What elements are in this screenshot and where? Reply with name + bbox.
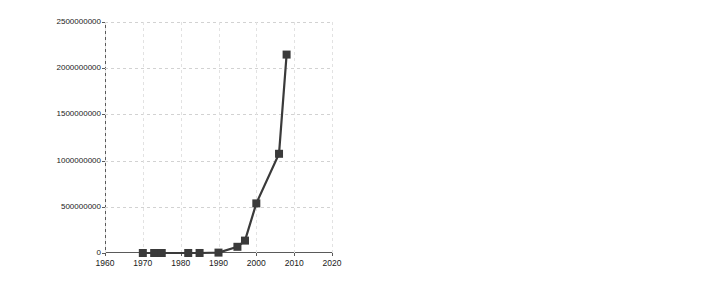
data-point-marker [241, 237, 249, 245]
x-axis-tick-label: 2020 [323, 259, 342, 268]
y-axis-tick-label: 1000000000 [57, 157, 102, 165]
x-axis-tick-label: 2000 [247, 259, 266, 268]
data-point-marker [196, 249, 204, 257]
chart-panel-linear: Speicher- Kapazität /Bit 050000000010000… [0, 0, 350, 298]
y-axis-tick-label: 1500000000 [57, 110, 102, 118]
data-point-marker [283, 51, 291, 59]
data-point-marker [252, 199, 260, 207]
x-axis-tick-label: 1970 [133, 259, 152, 268]
x-axis-tick-mark [105, 253, 106, 256]
plot-area-linear: 0500000000100000000015000000002000000000… [105, 22, 332, 253]
series-line [143, 55, 287, 253]
x-axis-tick-label: 1990 [209, 259, 228, 268]
x-axis-tick-mark [256, 253, 257, 256]
data-point-marker [150, 249, 158, 257]
x-axis-tick-label: 1960 [96, 259, 115, 268]
data-point-marker [233, 243, 241, 251]
data-point-marker [158, 249, 166, 257]
data-point-marker [184, 249, 192, 257]
y-axis-tick-label: 500000000 [61, 203, 101, 211]
memory-capacity-figure: Speicher- Kapazität /Bit 050000000010000… [0, 0, 701, 298]
data-series-linear [105, 22, 332, 253]
x-axis-tick-label: 1980 [171, 259, 190, 268]
y-axis-tick-label: 2000000000 [57, 64, 102, 72]
x-axis-tick-mark [332, 253, 333, 256]
data-point-marker [139, 249, 147, 257]
data-point-marker [215, 249, 223, 257]
data-point-marker [275, 150, 283, 158]
chart-panel-log: Log2 (Speicher- Kapzität /Bit) 051015202… [350, 0, 701, 298]
gridline-vertical [332, 22, 333, 253]
x-axis-tick-mark [294, 253, 295, 256]
y-axis-tick-label: 2500000000 [57, 18, 102, 26]
y-axis-tick-label: 0 [97, 249, 101, 257]
x-axis-tick-label: 2010 [285, 259, 304, 268]
